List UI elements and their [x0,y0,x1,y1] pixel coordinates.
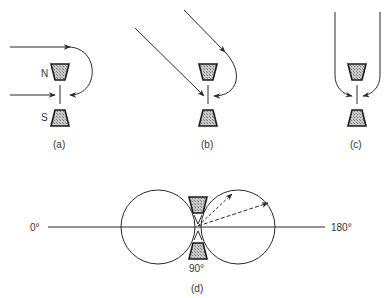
flow-curve-arrow [214,51,236,96]
caption-d: (d) [191,283,203,294]
caption-a: (a) [53,139,65,150]
magnet-top [189,197,207,213]
magnet-bottom [348,110,366,126]
pole-label-n: N [41,68,48,79]
flow-curve-arrow [68,47,92,95]
panel-b: (b) [135,10,236,150]
flow-arrow-left-diagonal [135,28,204,96]
panel-d: 0° 180° 90° (d) [30,190,352,294]
caption-b: (b) [201,139,213,150]
flow-arrow-right-diagonal [184,10,225,52]
panel-a: N S (a) [10,47,92,150]
magnet-top [348,64,366,80]
panel-c: (c) [335,12,380,150]
flow-arrow-left-vertical [335,12,352,96]
pole-label-s: S [41,112,48,123]
vector-arrow-shallow [198,203,268,226]
magnet-south [51,110,69,126]
magnet-bottom [189,243,207,259]
gap-wedge-bottom [194,231,202,240]
angle-label-0: 0° [30,222,40,233]
magnet-north [51,64,69,80]
magnet-top [199,64,217,80]
caption-c: (c) [350,139,362,150]
diagram-canvas: N S (a) (b) (c) 0° 180° 90° (d) [0,0,385,298]
magnet-bottom [199,110,217,126]
flow-arrow-right-vertical [363,12,380,96]
angle-label-90: 90° [189,263,204,274]
angle-label-180: 180° [331,222,352,233]
